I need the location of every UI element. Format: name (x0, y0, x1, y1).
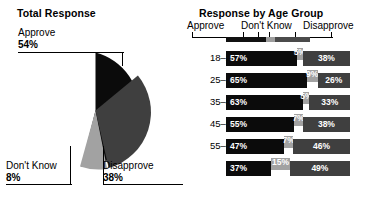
bar-row: 25–34yrs65%9%26% (185, 69, 369, 91)
pie-callout-approve-name: Approve (18, 27, 55, 39)
bar-segment-approve: 63% (226, 95, 303, 110)
bar-value-dont-know: 15% (272, 158, 289, 167)
bar-chart-legend: Approve Don't Know Disapprove (185, 20, 369, 46)
bar-value-disapprove: 49% (311, 164, 328, 173)
pie-callout-dont-know-value: 8% (6, 172, 57, 184)
bar-segment-dont-know: 7% (294, 114, 303, 126)
bar-row: 35–44yrs63%5%33% (185, 91, 369, 113)
bar-segment-disapprove: 49% (290, 161, 350, 176)
bar-row: 55–64yrs47%7%46% (185, 135, 369, 157)
bar-value-disapprove: 26% (325, 76, 342, 85)
bar-value-approve: 47% (230, 142, 247, 151)
bar-chart-rows: 18–24yrs57%5%38%25–34yrs65%9%26%35–44yrs… (185, 47, 369, 179)
legend-sample-bar (226, 37, 310, 42)
bar-row: 45–54yrs55%7%38% (185, 113, 369, 135)
stacked-bar: 47%7%46% (226, 139, 350, 154)
stacked-bar: 65%9%26% (226, 73, 350, 88)
legend-swatch-approve (226, 37, 266, 42)
legend-leader-disapprove-right (331, 32, 332, 38)
approve-leader-horizontal (18, 52, 124, 53)
stacked-bar: 63%5%33% (226, 95, 350, 110)
pie-callout-dont-know: Don't Know 8% (6, 160, 57, 183)
stacked-bar: 37%15%49% (226, 161, 350, 176)
pie-callout-approve: Approve 54% (18, 27, 55, 50)
legend-swatch-disapprove (275, 37, 310, 42)
bar-segment-disapprove: 38% (303, 117, 350, 132)
dont-know-leader-horizontal (6, 184, 72, 185)
pie-chart-title: Total Response (17, 7, 96, 19)
bar-value-disapprove: 46% (313, 142, 330, 151)
pie-chart-svg (36, 51, 155, 170)
bar-value-disapprove: 38% (318, 120, 335, 129)
bar-segment-disapprove: 26% (318, 73, 350, 88)
pie-callout-dont-know-name: Don't Know (6, 160, 57, 172)
bar-row: 65+37%15%49% (185, 157, 369, 179)
pie-callout-disapprove: Disapprove 38% (103, 160, 154, 183)
legend-label-disapprove: Disapprove (303, 20, 354, 31)
legend-label-approve: Approve (187, 20, 224, 31)
bar-value-approve: 37% (230, 164, 247, 173)
bar-value-approve: 63% (230, 98, 247, 107)
disapprove-leader-horizontal (103, 184, 183, 185)
bar-value-approve: 57% (230, 54, 247, 63)
bar-segment-approve: 57% (226, 51, 297, 66)
bar-chart-title: Response by Age Group (199, 7, 323, 19)
bar-segment-disapprove: 33% (309, 95, 350, 110)
pie-chart (36, 51, 155, 170)
bar-value-approve: 65% (230, 76, 247, 85)
bar-segment-approve: 37% (226, 161, 271, 176)
pie-callout-approve-value: 54% (18, 39, 55, 51)
bar-value-dont-know: 9% (306, 70, 318, 79)
bar-segment-approve: 47% (226, 139, 284, 154)
legend-swatch-dont-know (266, 37, 274, 42)
pie-callout-disapprove-value: 38% (103, 172, 154, 184)
bar-value-approve: 55% (230, 120, 247, 129)
bar-segment-disapprove: 38% (303, 51, 350, 66)
response-by-age-group-panel: Response by Age Group Approve Don't Know… (185, 0, 369, 204)
bar-segment-dont-know: 9% (307, 70, 318, 82)
bar-segment-approve: 65% (226, 73, 307, 88)
bar-value-disapprove: 38% (318, 54, 335, 63)
approve-leader-vertical (122, 52, 123, 66)
stacked-bar: 57%5%38% (226, 51, 350, 66)
bar-row: 18–24yrs57%5%38% (185, 47, 369, 69)
bar-segment-disapprove: 46% (293, 139, 350, 154)
pie-callout-disapprove-name: Disapprove (103, 160, 154, 172)
total-response-chart-panel: Total Response Approve 54% Don't Know 8%… (0, 0, 185, 204)
bar-segment-approve: 55% (226, 117, 294, 132)
legend-label-dont-know: Don't Know (241, 20, 292, 31)
stacked-bar: 55%7%38% (226, 117, 350, 132)
bar-value-disapprove: 33% (321, 98, 338, 107)
dont-know-leader-vertical (70, 146, 71, 185)
bar-segment-dont-know: 15% (271, 158, 289, 170)
bar-segment-dont-know: 7% (284, 136, 293, 148)
